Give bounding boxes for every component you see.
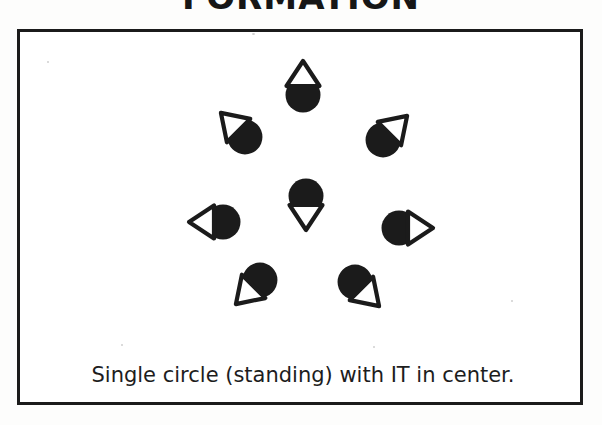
scan-speck [47, 61, 49, 63]
person-body [189, 206, 214, 239]
scan-speck [373, 346, 375, 348]
figure-caption: Single circle (standing) with IT in cent… [20, 363, 586, 387]
person-body [287, 61, 320, 86]
person-symbol-upper-right [351, 98, 425, 172]
person-symbol-center [269, 166, 343, 240]
person-symbol-lower-right [323, 250, 397, 324]
person-symbol-top [266, 51, 340, 125]
person-body [408, 212, 433, 245]
person-symbol-lower-left [218, 248, 292, 322]
page-heading-clip: FORMATION [0, 0, 602, 13]
page-heading: FORMATION [0, 0, 602, 13]
scan-speck [252, 33, 255, 35]
scan-speck [121, 344, 123, 346]
person-body [290, 205, 323, 230]
figure-frame: Single circle (standing) with IT in cent… [17, 29, 583, 405]
scan-speck [511, 300, 513, 302]
formation-diagram [20, 32, 586, 342]
person-symbol-upper-left [203, 95, 277, 169]
